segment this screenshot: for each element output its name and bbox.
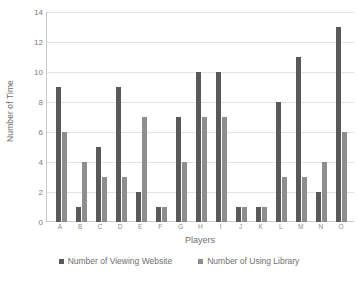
bar[interactable] [176, 117, 181, 222]
bar-group [211, 12, 231, 222]
bar[interactable] [322, 162, 327, 222]
x-axis-tick-label: H [190, 223, 210, 234]
y-axis-tick-label: 12 [34, 38, 43, 47]
bar-chart: Number of Time 02468101214 ABCDEFGHIJKLM… [0, 0, 358, 285]
y-axis-tick-label: 2 [39, 188, 43, 197]
x-axis-tick-label: F [150, 223, 170, 234]
y-axis-tick-label: 4 [39, 158, 43, 167]
x-axis-tick-label: A [50, 223, 70, 234]
bar[interactable] [142, 117, 147, 222]
bar[interactable] [76, 207, 81, 222]
y-axis-tick-label: 8 [39, 98, 43, 107]
bar[interactable] [136, 192, 141, 222]
legend-label: Number of Viewing Website [68, 256, 173, 266]
y-axis-tick-label: 14 [34, 8, 43, 17]
y-axis-tick-label: 0 [39, 218, 43, 227]
y-axis-title-label: Number of Time [5, 80, 15, 142]
y-axis-title: Number of Time [0, 0, 20, 222]
bar-group [91, 12, 111, 222]
bar-group [151, 12, 171, 222]
x-axis-title: Players [46, 235, 354, 245]
bar[interactable] [196, 72, 201, 222]
bar[interactable] [62, 132, 67, 222]
bar-group [251, 12, 271, 222]
bar[interactable] [256, 207, 261, 222]
x-axis-tick-label: G [170, 223, 190, 234]
legend-item[interactable]: Number of Using Library [198, 256, 299, 266]
bar[interactable] [336, 27, 341, 222]
x-axis-tick-label: E [130, 223, 150, 234]
bar[interactable] [302, 177, 307, 222]
x-axis-tick-label: O [331, 223, 351, 234]
bar-group [291, 12, 311, 222]
bar[interactable] [316, 192, 321, 222]
chart-legend: Number of Viewing WebsiteNumber of Using… [0, 256, 358, 266]
bar-group [71, 12, 91, 222]
legend-item[interactable]: Number of Viewing Website [59, 256, 173, 266]
bar[interactable] [236, 207, 241, 222]
x-axis-tick-label: J [231, 223, 251, 234]
bar-group [131, 12, 151, 222]
bar-group [191, 12, 211, 222]
x-axis-tick-label: M [291, 223, 311, 234]
bar-group [111, 12, 131, 222]
bar[interactable] [222, 117, 227, 222]
x-axis-tick-label: D [110, 223, 130, 234]
x-axis-tick-label: B [70, 223, 90, 234]
bar-group [271, 12, 291, 222]
bar[interactable] [282, 177, 287, 222]
bar[interactable] [162, 207, 167, 222]
bar[interactable] [56, 87, 61, 222]
bar[interactable] [116, 87, 121, 222]
bar[interactable] [156, 207, 161, 222]
bar[interactable] [182, 162, 187, 222]
x-axis-tick-label: I [211, 223, 231, 234]
bar-group [231, 12, 251, 222]
x-axis-tick-label: K [251, 223, 271, 234]
legend-label: Number of Using Library [207, 256, 299, 266]
bar-group [51, 12, 71, 222]
bar-group [171, 12, 191, 222]
y-axis-ticks: 02468101214 [20, 12, 46, 224]
bar-group [331, 12, 351, 222]
y-axis-tick-label: 10 [34, 68, 43, 77]
legend-swatch-icon [59, 259, 64, 264]
x-axis-title-label: Players [185, 235, 215, 245]
y-axis-tick-label: 6 [39, 128, 43, 137]
bar[interactable] [276, 102, 281, 222]
x-axis-ticks: ABCDEFGHIJKLMNO [46, 223, 354, 234]
legend-swatch-icon [198, 259, 203, 264]
bar[interactable] [102, 177, 107, 222]
plot-area [46, 12, 354, 222]
x-axis-tick-label: C [90, 223, 110, 234]
bar[interactable] [122, 177, 127, 222]
x-axis-tick-label: L [271, 223, 291, 234]
bar-group [311, 12, 331, 222]
bar[interactable] [296, 57, 301, 222]
bar[interactable] [82, 162, 87, 222]
bar[interactable] [216, 72, 221, 222]
bar[interactable] [242, 207, 247, 222]
bar[interactable] [96, 147, 101, 222]
bar[interactable] [262, 207, 267, 222]
plot-wrapper: 02468101214 [20, 12, 358, 224]
x-axis-tick-label: N [311, 223, 331, 234]
bar[interactable] [202, 117, 207, 222]
bars-layer [47, 12, 354, 222]
bar[interactable] [342, 132, 347, 222]
